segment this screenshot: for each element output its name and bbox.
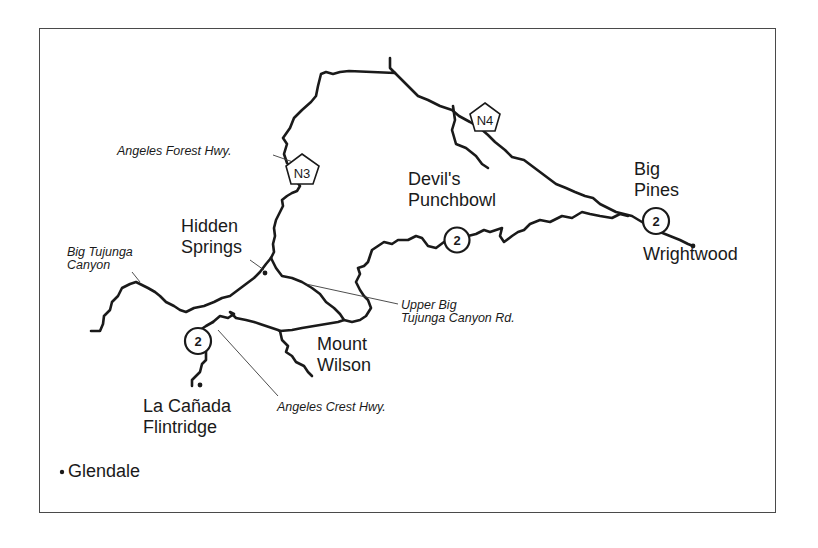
glendale-dot [60, 470, 64, 474]
svg-text:2: 2 [194, 334, 201, 349]
leader-angeles-crest-hwy [218, 330, 278, 396]
label-angeles-crest-hwy: Angeles Crest Hwy. [277, 401, 386, 414]
label-glendale: Glendale [68, 461, 140, 482]
label-big-pines: Big Pines [634, 159, 679, 201]
hidden-springs-dot [263, 271, 268, 276]
label-big-tujunga-canyon: Big Tujunga Canyon [67, 246, 133, 272]
svg-text:N4: N4 [477, 113, 494, 128]
label-mount-wilson: Mount Wilson [317, 334, 371, 376]
svg-text:2: 2 [453, 233, 460, 248]
route2-shield-icon-east: 2 [643, 208, 669, 234]
svg-text:2: 2 [652, 214, 659, 229]
svg-text:N3: N3 [294, 166, 311, 181]
label-devils-punchbowl: Devil's Punchbowl [408, 169, 496, 211]
road-mount-wilson [280, 331, 312, 376]
label-wrightwood: Wrightwood [643, 244, 738, 265]
route2-shield-icon-west: 2 [185, 328, 211, 354]
la-canada-dot [198, 383, 203, 388]
label-hidden-springs: Hidden Springs [181, 216, 242, 258]
n3-shield-icon: N3 [286, 154, 319, 184]
leader-big-tujunga-canyon [132, 272, 140, 282]
label-angeles-forest-hwy: Angeles Forest Hwy. [117, 145, 231, 158]
route2-shield-icon-mid: 2 [445, 228, 470, 253]
leader-hidden-springs [250, 260, 264, 270]
road-angeles-crest-west [213, 312, 280, 331]
road-angeles-forest-hwy [271, 58, 395, 258]
road-upper-big-tujunga [271, 258, 344, 331]
label-upper-big-tujunga-canyon-rd: Upper Big Tujunga Canyon Rd. [401, 299, 515, 325]
n4-shield-icon: N4 [470, 103, 500, 131]
label-la-canada-flintridge: La Cañada Flintridge [143, 396, 231, 438]
leader-angeles-forest-hwy [273, 155, 293, 162]
